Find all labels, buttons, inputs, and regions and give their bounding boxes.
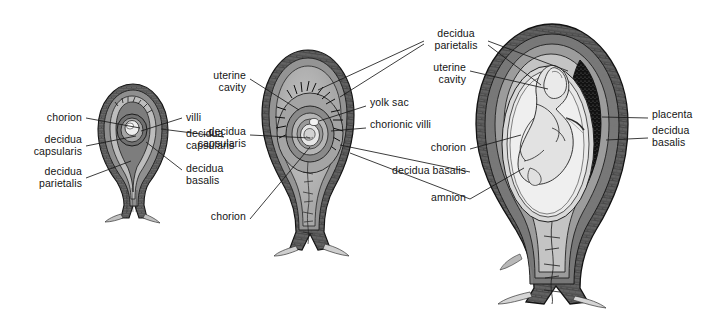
specimen-mid-body <box>262 50 354 256</box>
label-decidua-basalis-1: decidua basalis <box>186 163 223 186</box>
label-decidua-capsularis-mid: decidua capsularis <box>166 126 246 149</box>
label-decidua-capsularis-left: decidua capsularis <box>0 134 82 157</box>
label-amnion: amnion <box>376 192 466 204</box>
label-yolk-sac: yolk sac <box>370 97 409 109</box>
specimen-late-body <box>476 24 628 308</box>
figure-canvas: chorion decidua capsularis decidua parie… <box>0 0 722 314</box>
specimen-early-body <box>98 84 168 223</box>
label-uterine-cavity-mid: uterine cavity <box>166 70 246 93</box>
label-decidua-parietalis-top: decidua parietalis <box>398 28 514 51</box>
label-decidua-basalis-center: decidua basalis <box>356 165 466 177</box>
specimen-early-illustration <box>0 0 722 314</box>
label-uterine-cavity-right: uterine cavity <box>376 62 466 85</box>
label-chorion-left: chorion <box>0 112 82 124</box>
label-placenta: placenta <box>652 109 693 121</box>
label-decidua-basalis-right: decidua basalis <box>652 125 689 148</box>
label-decidua-parietalis-left: decidua parietalis <box>0 166 82 189</box>
label-villi: villi <box>186 112 201 124</box>
label-chorion-mid: chorion <box>166 211 246 223</box>
label-chorion-right: chorion <box>376 142 466 154</box>
label-chorionic-villi: chorionic villi <box>370 119 431 131</box>
